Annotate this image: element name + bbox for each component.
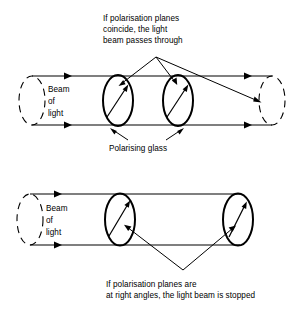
- top-beam-label-line-1: Beam: [48, 85, 70, 94]
- top-cylinder-right-opening: [259, 76, 285, 125]
- bottom-beam-label-line-2: of: [46, 216, 54, 225]
- top-caption-line-3: beam passes through: [103, 36, 183, 45]
- polarisation-diagram: If polarisation planes coincide, the lig…: [0, 0, 296, 309]
- top-beam-label-line-2: of: [48, 97, 56, 106]
- top-beam-arrowhead-upper-left: [64, 73, 72, 80]
- bottom-leader-line-to-glass-3: [127, 227, 183, 270]
- diagram-canvas: If polarisation planes coincide, the lig…: [0, 0, 296, 309]
- polarising-glass-2-plane-line: [167, 88, 186, 117]
- bottom-beam-arrowhead-lower: [54, 242, 62, 249]
- bottom-beam-label-line-3: light: [46, 228, 62, 237]
- top-caption-line-1: If polarisation planes: [103, 14, 179, 23]
- top-leader-line-to-glass-1: [121, 57, 156, 84]
- polarising-glass-label-arrowhead-left: [110, 128, 117, 135]
- polarising-glass-3-plane-arrowhead: [124, 201, 130, 208]
- polarising-glass-label: Polarising glass: [109, 144, 167, 153]
- top-caption-line-2: coincide, the light: [103, 25, 168, 34]
- polarising-glass-4-plane-line: [229, 205, 245, 237]
- polarising-glass-1-plane-line: [107, 88, 126, 117]
- bottom-panel: Beam of light If polarisation planes are…: [17, 191, 256, 300]
- top-beam-label-line-3: light: [48, 109, 64, 118]
- polarising-glass-label-arrowhead-right: [177, 128, 184, 135]
- bottom-leader-line-to-glass-4: [183, 228, 233, 270]
- top-panel: If polarisation planes coincide, the lig…: [19, 14, 285, 153]
- top-beam-arrowhead-upper-right: [244, 73, 252, 80]
- bottom-beam-label-line-1: Beam: [46, 204, 68, 213]
- bottom-beam-arrowhead-upper: [54, 191, 62, 198]
- top-leader-line-to-exit-beam: [156, 57, 258, 101]
- top-beam-arrowhead-lower-left: [64, 122, 72, 129]
- top-beam-arrowhead-lower-right: [244, 122, 252, 129]
- polarising-glass-4-plane-arrowhead: [242, 202, 247, 210]
- bottom-caption-line-1: If polarisation planes are: [106, 280, 197, 289]
- bottom-caption-line-2: at right angles, the light beam is stopp…: [106, 291, 256, 300]
- polarising-glass-3-plane-line: [109, 204, 128, 236]
- top-leader-arrowhead-to-exit-beam: [253, 97, 261, 103]
- bottom-cylinder-left-opening: [17, 194, 43, 245]
- top-cylinder-left-opening: [19, 76, 45, 125]
- polarising-glass-3: [105, 194, 135, 246]
